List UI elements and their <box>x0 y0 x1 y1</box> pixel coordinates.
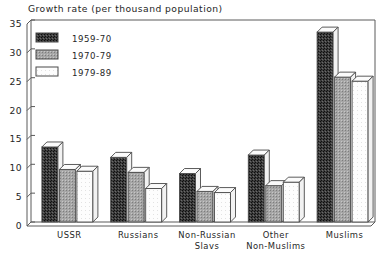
bar <box>283 177 304 222</box>
growth-rate-bar-chart: Growth rate (per thousand population) 05… <box>0 0 385 254</box>
bar-side-face <box>93 166 98 222</box>
x-axis-category-label: Russians <box>118 230 159 240</box>
bar-side-face <box>368 76 373 222</box>
bar <box>146 184 167 222</box>
y-tick-label: 15 <box>10 133 23 144</box>
chart-canvas: Growth rate (per thousand population) 05… <box>0 0 385 254</box>
bar-front-face <box>317 32 333 222</box>
bar-front-face <box>248 155 264 222</box>
bar-side-face <box>162 184 167 222</box>
bar-front-face <box>180 174 196 222</box>
x-axis-category-label: Muslims <box>326 230 364 240</box>
bar-front-face <box>266 186 282 222</box>
legend-label: 1959-70 <box>72 34 112 44</box>
bar-side-face <box>231 188 236 222</box>
legend-swatch <box>36 67 58 76</box>
bar-front-face <box>283 182 299 222</box>
y-tick-label: 10 <box>10 162 23 173</box>
bar-front-face <box>197 191 213 222</box>
y-tick-label: 25 <box>10 76 23 87</box>
x-axis-category-label: Other <box>263 230 289 240</box>
chart-legend: 1959-701970-791979-89 <box>36 33 112 78</box>
x-axis-category-label: USSR <box>57 230 82 240</box>
legend-item: 1959-70 <box>36 33 112 44</box>
bar-front-face <box>335 77 351 222</box>
y-tick-label: 35 <box>10 18 23 29</box>
x-axis-category-label: Non-Russian <box>178 230 235 240</box>
bar-front-face <box>111 157 127 222</box>
bar-front-face <box>42 147 58 222</box>
bar-front-face <box>146 189 162 222</box>
bar-front-face <box>215 193 231 222</box>
bar-side-face <box>299 177 304 222</box>
legend-label: 1979-89 <box>72 68 112 78</box>
bar <box>352 76 373 222</box>
x-axis-category-label: Slavs <box>195 241 220 251</box>
y-tick-label: 30 <box>10 47 23 58</box>
bar <box>77 166 98 222</box>
legend-swatch <box>36 33 58 42</box>
bar-front-face <box>352 81 368 222</box>
legend-item: 1970-79 <box>36 50 112 61</box>
legend-swatch <box>36 50 58 59</box>
y-tick-label: 0 <box>16 220 22 231</box>
legend-item: 1979-89 <box>36 67 112 78</box>
bar-front-face <box>77 171 93 222</box>
y-tick-label: 20 <box>10 105 23 116</box>
y-tick-label: 5 <box>16 191 22 202</box>
x-axis-category-label: Non-Muslims <box>246 241 305 251</box>
bar <box>215 188 236 222</box>
legend-label: 1970-79 <box>72 51 112 61</box>
bar-front-face <box>59 169 75 222</box>
bar-front-face <box>128 172 144 222</box>
chart-title: Growth rate (per thousand population) <box>28 3 223 14</box>
